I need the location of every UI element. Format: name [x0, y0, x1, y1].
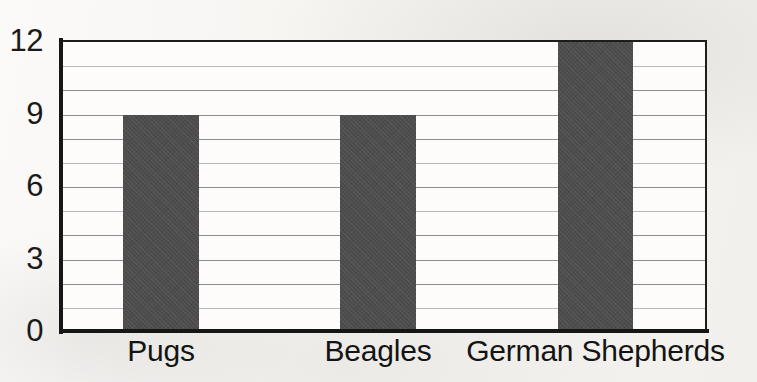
x-category-label: Beagles — [324, 336, 431, 366]
y-tick-label: 0 — [0, 315, 43, 346]
bar-beagles — [340, 115, 416, 333]
x-category-label: Pugs — [127, 336, 195, 366]
bar-chart-figure: 129630 PugsBeaglesGerman Shepherds — [0, 0, 757, 382]
x-category-label: German Shepherds — [466, 336, 725, 366]
y-tick-label: 9 — [0, 98, 43, 129]
y-axis-line — [59, 38, 63, 334]
bar-pugs — [123, 115, 199, 333]
y-tick-label: 3 — [0, 243, 43, 274]
plot-area — [62, 40, 707, 332]
y-tick-label: 6 — [0, 170, 43, 201]
bar-german-shepherds — [558, 42, 633, 332]
y-tick-label: 12 — [0, 25, 43, 56]
x-axis-line — [59, 329, 709, 333]
